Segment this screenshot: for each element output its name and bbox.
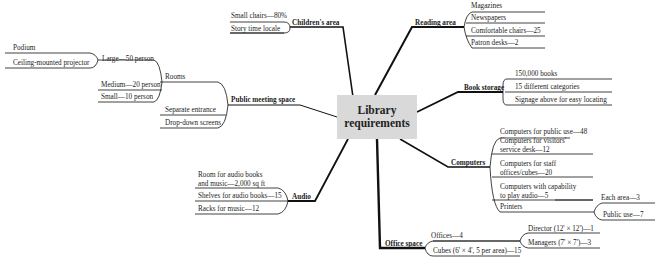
computers-item[interactable]: Computers for public use—48 (500, 128, 587, 137)
book-storage-item[interactable]: 15 different categories (515, 83, 580, 92)
branch-childrens-area[interactable]: Children's area (292, 19, 339, 28)
large-room-item[interactable]: Podium (13, 44, 35, 53)
audio-item[interactable]: Room for audio books and music—2,000 sq … (198, 171, 265, 188)
meeting-item[interactable]: Drop-down screens (165, 119, 221, 128)
childrens-item[interactable]: Story time locale (231, 25, 280, 34)
central-topic-line2: requirements (344, 117, 409, 130)
meeting-item[interactable]: Separate entrance (165, 106, 216, 115)
meeting-rooms[interactable]: Rooms (165, 73, 185, 82)
connector-reading-area (375, 27, 464, 95)
reading-item[interactable]: Patron desks—2 (471, 39, 518, 48)
central-topic-line1: Library (344, 104, 409, 117)
printers-item[interactable]: Each area—3 (601, 194, 640, 203)
printers-item[interactable]: Public use—7 (603, 211, 644, 220)
branch-public-meeting-space[interactable]: Public meeting space (231, 96, 295, 105)
computers-item[interactable]: Computers with capability to play audio—… (500, 183, 576, 200)
computers-printers[interactable]: Printers (500, 203, 522, 212)
offices-item[interactable]: Managers (7' × 7')—3 (528, 239, 591, 248)
childrens-item[interactable]: Small chairs—80% (231, 12, 287, 21)
computers-item-line: service desk—12 (500, 146, 566, 155)
reading-item[interactable]: Comfortable chairs—25 (471, 27, 541, 36)
computers-item-line: Computers for staff (500, 160, 556, 169)
computers-item-line: to play audio—5 (500, 192, 576, 201)
branch-reading-area[interactable]: Reading area (415, 19, 456, 28)
office-offices[interactable]: Offices—4 (431, 232, 463, 241)
branch-computers[interactable]: Computers (451, 159, 485, 168)
book-storage-item[interactable]: 150,000 books (515, 70, 557, 79)
computers-item-line: Computers for visitors' (500, 137, 566, 146)
connector-office-space (377, 139, 425, 248)
audio-item[interactable]: Shelves for audio books—15 (198, 192, 282, 201)
branch-office-space[interactable]: Office space (385, 240, 422, 249)
central-topic[interactable]: Library requirements (337, 95, 417, 139)
reading-item[interactable]: Magazines (471, 2, 502, 11)
computers-item[interactable]: Computers for staff offices/cubes—20 (500, 160, 556, 177)
connector-audio (288, 139, 348, 201)
connector-public-meeting-space (228, 105, 337, 117)
connector-book-storage (417, 92, 503, 112)
rooms-large[interactable]: Large—50 person (102, 55, 154, 64)
rooms-small[interactable]: Small—10 person (101, 93, 153, 102)
offices-item[interactable]: Director (12' × 12')—1 (528, 225, 594, 234)
computers-item[interactable]: Computers for visitors' service desk—12 (500, 137, 566, 154)
branch-book-storage[interactable]: Book storage (464, 84, 504, 93)
office-cubes[interactable]: Cubes (6' × 4', 5 per area)—15 (433, 247, 521, 256)
book-storage-item[interactable]: Signage above for easy locating (515, 96, 607, 105)
reading-item[interactable]: Newspapers (471, 14, 506, 23)
rooms-medium[interactable]: Medium—20 person (101, 81, 161, 90)
audio-item-line: Room for audio books (198, 171, 265, 180)
branch-audio[interactable]: Audio (292, 193, 311, 202)
computers-item-line: offices/cubes—20 (500, 169, 556, 178)
computers-item-line: Computers with capability (500, 183, 576, 192)
connector-childrens-area (290, 27, 353, 97)
large-room-item[interactable]: Ceiling-mounted projector (13, 59, 89, 68)
audio-item-line: and music—2,000 sq ft (198, 180, 265, 189)
audio-item[interactable]: Racks for music—12 (198, 205, 259, 214)
